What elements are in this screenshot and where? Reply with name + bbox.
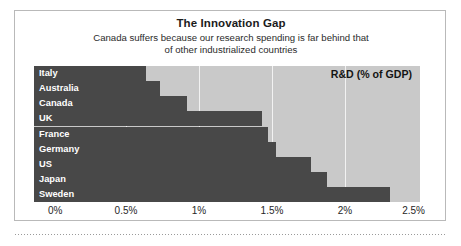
bar: [34, 111, 262, 126]
title-block: The Innovation Gap Canada suffers becaus…: [15, 16, 447, 57]
x-axis: 0%0.5%1%1.5%2%2.5%: [34, 203, 420, 221]
chart-frame: The Innovation Gap Canada suffers becaus…: [14, 10, 446, 221]
bar-category-label: France: [39, 127, 70, 142]
bar-row: Germany: [34, 142, 420, 157]
x-tick-label: 0%: [48, 205, 62, 216]
bar-category-label: Germany: [39, 142, 79, 157]
chart-subtitle-line-1: Canada suffers because our research spen…: [15, 32, 447, 44]
x-tick-label: 2.5%: [402, 205, 425, 216]
x-tick-label: 1.5%: [261, 205, 284, 216]
bar: [34, 187, 390, 202]
bar-row: Sweden: [34, 187, 420, 202]
bar-category-label: Italy: [39, 66, 58, 81]
bar: [34, 172, 327, 187]
bar-category-label: UK: [39, 111, 52, 126]
bar-row: France: [34, 127, 420, 142]
chart-subtitle-line-2: of other industrialized countries: [15, 44, 447, 56]
bar: [34, 157, 311, 172]
chart-title: The Innovation Gap: [15, 16, 447, 30]
bar-row: Canada: [34, 96, 420, 111]
bar-category-label: Sweden: [39, 187, 74, 202]
bar-row: Australia: [34, 81, 420, 96]
chart-figure: The Innovation Gap Canada suffers becaus…: [0, 0, 461, 246]
plot-area: ItalyAustraliaCanadaUKFranceGermanyUSJap…: [34, 66, 420, 202]
x-tick-label: 0.5%: [115, 205, 138, 216]
chart-subtitle: Canada suffers because our research spen…: [15, 32, 447, 57]
x-tick-label: 2%: [338, 205, 352, 216]
bar-row: UK: [34, 111, 420, 126]
bar-category-label: Japan: [39, 172, 66, 187]
bar-category-label: Australia: [39, 81, 79, 96]
bar-category-label: US: [39, 157, 52, 172]
x-tick-label: 1%: [192, 205, 206, 216]
bottom-dotted-rule: [14, 233, 447, 235]
bar-row: US: [34, 157, 420, 172]
bar-category-label: Canada: [39, 96, 73, 111]
rd-annotation: R&D (% of GDP): [331, 68, 412, 80]
bar-row: Japan: [34, 172, 420, 187]
